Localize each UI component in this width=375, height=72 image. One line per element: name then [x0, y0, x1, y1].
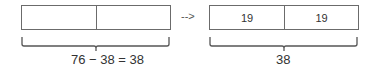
- right-brace-icon: [0, 0, 375, 72]
- total-label: 38: [276, 52, 290, 67]
